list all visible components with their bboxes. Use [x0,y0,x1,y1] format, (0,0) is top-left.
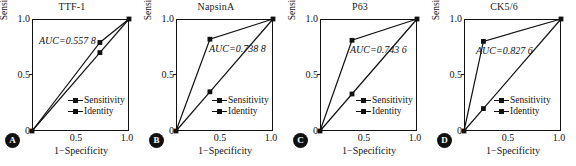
y-tick-1-b: 1.0 [144,13,174,24]
x-tick-10-b: 1.0 [258,132,284,143]
x-axis-label-c: 1−Specificity [310,145,428,156]
panel-badge-a: A [5,133,20,148]
legend-marker-identity-icon [68,107,83,117]
legend-label-sensitivity-c: Sensitivity [372,95,413,106]
x-tick-05-c: 0.5 [352,132,376,143]
legend-item-identity-d: Identity [494,106,551,117]
sensitivity-point-c [350,38,355,43]
identity-point-d [481,106,486,111]
y-tick-05-d: 0.5 [432,69,462,80]
roc-figure: TTF-1 Sensitivity 1.0 0.5 0 AUC=0.557 8 … [0,0,576,166]
legend-label-identity-a: Identity [84,106,114,117]
legend-label-sensitivity-d: Sensitivity [510,95,551,106]
legend-marker-sensitivity-icon [212,96,227,106]
legend-item-sensitivity-c: Sensitivity [356,95,413,106]
x-axis-label-d: 1−Specificity [454,145,572,156]
legend-label-sensitivity-b: Sensitivity [228,95,269,106]
auc-annotation-d: AUC=0.827 6 [476,45,533,56]
panel-title-b: NapsinA [144,1,288,12]
legend-label-sensitivity-a: Sensitivity [84,95,125,106]
x-axis-label-b: 1−Specificity [166,145,284,156]
legend-marker-identity-icon [212,107,227,117]
identity-point-b [208,89,213,94]
panel-badge-d: D [437,133,452,148]
legend-label-identity-d: Identity [510,106,540,117]
x-axis-label-a: 1−Specificity [22,145,140,156]
legend-a: Sensitivity Identity [68,95,125,117]
panel-title-d: CK5/6 [432,1,576,12]
legend-item-identity-a: Identity [68,106,125,117]
y-tick-05-b: 0.5 [144,69,174,80]
legend-item-sensitivity-d: Sensitivity [494,95,551,106]
roc-panel-d: CK5/6 Sensitivity 1.0 0.5 0 AUC=0.827 6 … [432,0,576,166]
roc-panel-a: TTF-1 Sensitivity 1.0 0.5 0 AUC=0.557 8 … [0,0,144,166]
corner-point-d [559,17,564,22]
x-tick-10-d: 1.0 [546,132,572,143]
roc-panel-b: NapsinA Sensitivity 1.0 0.5 0 AUC=0.738 … [144,0,288,166]
panel-title-c: P63 [288,1,432,12]
panel-badge-c: C [293,133,308,148]
legend-marker-sensitivity-icon [68,96,83,106]
legend-b: Sensitivity Identity [212,95,269,117]
auc-annotation-c: AUC=0.743 6 [350,44,407,55]
corner-point-a [127,17,132,22]
x-tick-05-a: 0.5 [64,132,88,143]
legend-marker-sensitivity-icon [494,96,509,106]
x-tick-10-c: 1.0 [402,132,428,143]
y-tick-1-c: 1.0 [288,13,318,24]
identity-point-a [98,50,103,55]
y-tick-1-a: 1.0 [0,13,30,24]
legend-label-identity-b: Identity [228,106,258,117]
origin-point-c [318,129,323,134]
x-tick-05-d: 0.5 [496,132,520,143]
figure-caption [0,162,576,166]
x-tick-10-a: 1.0 [114,132,140,143]
panel-badge-b: B [149,133,164,148]
legend-marker-identity-icon [356,107,371,117]
legend-marker-identity-icon [494,107,509,117]
y-tick-1-d: 1.0 [432,13,462,24]
legend-marker-sensitivity-icon [356,96,371,106]
legend-item-sensitivity-b: Sensitivity [212,95,269,106]
legend-item-sensitivity-a: Sensitivity [68,95,125,106]
sensitivity-point-b [208,37,213,42]
sensitivity-point-d [481,39,486,44]
legend-item-identity-b: Identity [212,106,269,117]
y-tick-05-c: 0.5 [288,69,318,80]
origin-point-d [462,129,467,134]
y-tick-05-a: 0.5 [0,69,30,80]
panel-title-a: TTF-1 [0,1,144,12]
identity-point-c [350,92,355,97]
auc-annotation-a: AUC=0.557 8 [39,35,96,46]
x-tick-05-b: 0.5 [208,132,232,143]
origin-point-a [30,129,35,134]
origin-point-b [174,129,179,134]
legend-item-identity-c: Identity [356,106,413,117]
roc-panel-c: P63 Sensitivity 1.0 0.5 0 AUC=0.743 6 Se… [288,0,432,166]
corner-point-b [271,17,276,22]
legend-label-identity-c: Identity [372,106,402,117]
legend-c: Sensitivity Identity [356,95,413,117]
legend-d: Sensitivity Identity [494,95,551,117]
corner-point-c [415,17,420,22]
sensitivity-point-a [98,40,103,45]
auc-annotation-b: AUC=0.738 8 [209,43,266,54]
